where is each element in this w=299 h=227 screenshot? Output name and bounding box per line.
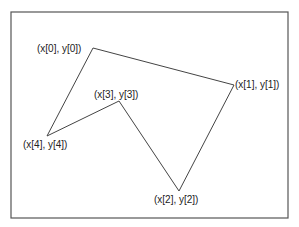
- polygon-diagram: (x[0], y[0]) (x[1], y[1]) (x[2], y[2]) (…: [0, 0, 299, 227]
- vertex-label-3: (x[3], y[3]): [94, 89, 138, 100]
- vertex-label-4: (x[4], y[4]): [23, 139, 67, 150]
- vertex-label-1: (x[1], y[1]): [235, 79, 279, 90]
- vertex-label-0: (x[0], y[0]): [37, 43, 81, 54]
- vertex-label-2: (x[2], y[2]): [154, 194, 198, 205]
- polygon-shape: [47, 48, 234, 191]
